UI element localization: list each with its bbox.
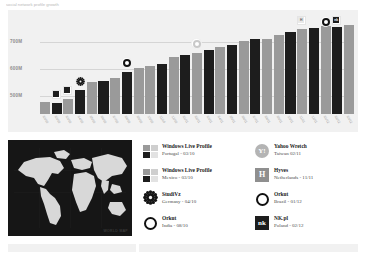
legend-text: StudiVzGermany - 04/10 <box>162 190 196 205</box>
legend-item[interactable]: StudiVzGermany - 04/10 <box>142 190 246 214</box>
x-axis-tick: 11/10 <box>157 114 167 132</box>
map-watermark: WORLD MAP <box>103 229 128 233</box>
bar[interactable] <box>122 72 132 114</box>
x-axis-tick: 07/11 <box>250 114 260 132</box>
legend-item[interactable]: HHyvesNetherlands - 11/11 <box>254 166 358 190</box>
lower-section: WORLD MAP Windows Live ProfilePortugal -… <box>8 140 358 252</box>
y-axis-tick: 700M <box>10 39 38 44</box>
bar-slot <box>157 16 167 114</box>
studivz-gear-icon <box>143 190 158 209</box>
swatch <box>143 145 150 151</box>
bar[interactable] <box>227 45 237 115</box>
bar-marker-yahoo[interactable] <box>191 38 202 49</box>
legend-item[interactable]: Windows Live ProfileMexico - 03/10 <box>142 166 246 190</box>
bar[interactable] <box>110 78 120 114</box>
legend-icon-wrap <box>142 143 158 159</box>
legend-title: Orkut <box>274 191 302 198</box>
legend-text: HyvesNetherlands - 11/11 <box>274 166 313 181</box>
bar-slot <box>332 16 342 114</box>
bar-slot <box>274 16 284 114</box>
legend-title: Windows Live Profile <box>162 143 212 150</box>
bar[interactable] <box>192 53 202 114</box>
bar-slot <box>204 16 214 114</box>
legend-item[interactable]: OrkutIndia - 08/10 <box>142 214 246 238</box>
bar[interactable] <box>309 28 319 114</box>
bar-slot <box>40 16 50 114</box>
x-axis-ticks: 03/1003/1003/1004/1005/1006/1007/1008/10… <box>40 114 354 132</box>
orkut-ring-icon <box>121 57 132 68</box>
plot-area: 700M 600M 500M Hnk <box>40 16 354 114</box>
x-axis-tick: 10/11 <box>285 114 295 132</box>
x-axis-tick: 02/12 <box>332 114 342 132</box>
bar[interactable] <box>344 25 354 114</box>
bar-marker-square-dark[interactable] <box>52 90 61 99</box>
orkut-ring-icon <box>256 193 269 206</box>
bar[interactable] <box>215 47 225 114</box>
bar[interactable] <box>157 64 167 114</box>
bar[interactable] <box>180 55 190 114</box>
legend-item[interactable]: OrkutBrazil - 01/12 <box>254 190 358 214</box>
bar[interactable] <box>145 66 155 114</box>
bar-slot <box>145 16 155 114</box>
x-axis-tick: 03/11 <box>204 114 214 132</box>
swatch <box>151 152 158 158</box>
bar-marker-square-dark[interactable] <box>63 86 72 95</box>
legend-icon-wrap: Y! <box>254 143 270 159</box>
legend-item[interactable]: Y!Yahoo WretchTaiwan 02/11 <box>254 142 358 166</box>
bar[interactable] <box>332 27 342 114</box>
x-axis-tick: 01/11 <box>180 114 190 132</box>
swatch <box>151 169 158 175</box>
orkut-ring-icon <box>320 16 331 27</box>
bar-slot <box>250 16 260 114</box>
bar[interactable] <box>75 90 85 114</box>
bar[interactable] <box>321 26 331 114</box>
bar[interactable] <box>169 57 179 114</box>
bar-slot <box>98 16 108 114</box>
bar[interactable] <box>98 81 108 114</box>
bar[interactable] <box>297 29 307 114</box>
bar-slot <box>169 16 179 114</box>
bar[interactable] <box>52 103 62 114</box>
bar-marker-hyves[interactable]: H <box>297 16 306 25</box>
legend-text: NK.plPoland - 02/12 <box>274 214 303 229</box>
y-axis-tick: 500M <box>10 93 38 98</box>
bar[interactable] <box>285 32 295 114</box>
yahoo-icon <box>191 38 202 49</box>
legend-item[interactable]: Windows Live ProfilePortugal - 03/10 <box>142 142 246 166</box>
bar[interactable] <box>40 102 50 114</box>
bar[interactable] <box>250 39 260 114</box>
bar[interactable] <box>262 39 272 114</box>
bar-slot <box>134 16 144 114</box>
bar[interactable] <box>87 82 97 114</box>
bar-slot <box>180 16 190 114</box>
bar[interactable] <box>204 50 214 114</box>
windows-live-profile-icon <box>52 90 61 99</box>
legend-text: OrkutBrazil - 01/12 <box>274 190 302 205</box>
bar-slot <box>344 16 354 114</box>
legend-icon-wrap: H <box>254 167 270 183</box>
x-axis-tick: 08/10 <box>122 114 132 132</box>
bar[interactable] <box>134 68 144 114</box>
bar[interactable] <box>63 99 73 115</box>
swatch <box>143 176 150 182</box>
x-axis-tick: 05/11 <box>227 114 237 132</box>
bar-slot <box>227 16 237 114</box>
infographic-root: social network profile growth 700M 600M … <box>0 0 366 264</box>
bar-slot <box>87 16 97 114</box>
hyves-icon: H <box>297 16 306 25</box>
legend-title: NK.pl <box>274 215 303 222</box>
bar-marker-nk[interactable]: nk <box>332 16 341 25</box>
bar[interactable] <box>274 35 284 114</box>
bar-series <box>40 16 354 114</box>
legend-item[interactable]: nkNK.plPoland - 02/12 <box>254 214 358 238</box>
bar-marker-ring[interactable] <box>121 57 132 68</box>
bar-marker-gear[interactable] <box>75 76 85 86</box>
bar-marker-ring[interactable] <box>320 16 331 27</box>
y-axis-tick: 600M <box>10 66 38 71</box>
bar[interactable] <box>239 41 249 114</box>
color-swatches-icon <box>143 145 158 158</box>
x-axis-tick: 06/10 <box>98 114 108 132</box>
legend-title: Windows Live Profile <box>162 167 212 174</box>
x-axis-tick: 03/10 <box>63 114 73 132</box>
legend-icon-wrap: nk <box>254 215 270 231</box>
